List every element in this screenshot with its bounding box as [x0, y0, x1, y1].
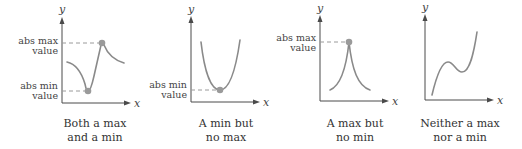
abs-max-value-label: value	[31, 45, 58, 56]
caption-line-1: A min but	[166, 117, 286, 131]
min-point	[85, 88, 92, 95]
max-point	[346, 39, 353, 46]
abs-max-value-label: value	[289, 42, 316, 53]
function-curve	[432, 32, 477, 95]
caption-both: Both a max and a min	[35, 117, 155, 145]
y-axis-label: y	[187, 3, 195, 16]
x-axis-arrow-icon	[487, 98, 494, 103]
x-axis-arrow-icon	[124, 101, 131, 106]
y-axis-label: y	[421, 1, 429, 14]
x-axis-label: x	[263, 96, 270, 109]
caption-max-no-min: A max but no min	[295, 117, 415, 145]
caption-line-1: A max but	[295, 117, 415, 131]
caption-line-2: nor a min	[400, 131, 520, 145]
abs-min-value-label: value	[31, 90, 58, 101]
function-curve	[330, 42, 370, 90]
function-curve	[201, 40, 240, 90]
y-axis-arrow-icon	[189, 16, 194, 23]
x-axis-label: x	[134, 97, 141, 110]
abs-min-value-label: value	[160, 89, 187, 100]
x-axis-label: x	[392, 95, 399, 108]
x-axis-label: x	[497, 94, 504, 107]
caption-min-no-max: A min but no max	[166, 117, 286, 145]
x-axis-arrow-icon	[253, 100, 260, 105]
panel-min-no-max: y x abs min value	[149, 3, 270, 109]
y-axis-label: y	[58, 3, 66, 16]
y-axis-label: y	[316, 2, 324, 15]
y-axis-arrow-icon	[423, 14, 428, 21]
y-axis-arrow-icon	[318, 15, 323, 22]
min-point	[217, 87, 224, 94]
caption-neither: Neither a max nor a min	[400, 117, 520, 145]
caption-line-2: no min	[295, 131, 415, 145]
caption-line-1: Both a max	[35, 117, 155, 131]
panel-both-max-and-min: y x abs max value abs min value	[18, 3, 141, 110]
max-point	[99, 40, 106, 47]
panel-max-no-min: y x abs max value	[276, 2, 399, 108]
caption-line-2: and a min	[35, 131, 155, 145]
caption-line-2: no max	[166, 131, 286, 145]
panel-neither: y x	[421, 1, 504, 107]
function-curve	[67, 44, 124, 92]
x-axis-arrow-icon	[382, 99, 389, 104]
caption-line-1: Neither a max	[400, 117, 520, 131]
y-axis-arrow-icon	[60, 17, 65, 24]
